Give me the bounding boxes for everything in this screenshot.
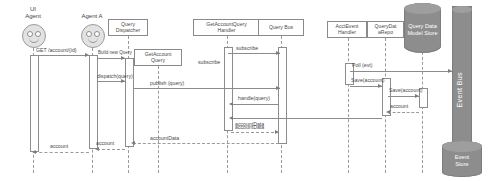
- participant-query-repo-line2: aRepo: [378, 30, 393, 36]
- activation-query-dispatcher: [125, 58, 134, 147]
- database-event-store-line2: Store: [455, 161, 468, 168]
- participant-handler-line2: Handler: [218, 28, 236, 34]
- message-label-publish-query: publish (query): [150, 80, 184, 86]
- message-label-account-data-2: accountData: [235, 124, 264, 130]
- message-label-account-1: account: [96, 140, 114, 146]
- actor-eye-left-icon: [86, 31, 92, 37]
- arrow-head-right-icon: [415, 94, 419, 98]
- database-event-store[interactable]: Event Store: [442, 141, 482, 177]
- participant-acct-handler-line2: Handler: [338, 30, 356, 36]
- actor-eye-left-icon: [27, 31, 33, 37]
- lifeline-acct-handler: [348, 38, 349, 173]
- event-bus-label: Event Bus: [456, 72, 463, 108]
- arrow-head-right-icon: [378, 84, 382, 88]
- actor-icon-agent-a: [81, 24, 105, 48]
- activation-agent-a: [89, 55, 98, 149]
- arrow-head-left-icon: [229, 102, 233, 106]
- arrow-head-left-icon: [229, 116, 233, 120]
- message-line-account-store: [388, 112, 419, 113]
- message-line-account-data-2: [231, 132, 279, 133]
- message-label-account-data-3: accountData: [150, 135, 179, 141]
- arrow-head-right-icon: [121, 56, 125, 60]
- message-label-subscribe-left: subscribe: [198, 59, 220, 65]
- message-label-account-store: account: [390, 103, 408, 109]
- bus-cap-icon: [452, 6, 472, 13]
- message-label-poll-evt: Poll (evt): [352, 62, 372, 68]
- arrow-head-left-icon: [386, 110, 390, 114]
- message-label-dispatch-query: dispatch(query): [97, 73, 133, 79]
- database-query-data-model-store[interactable]: Query Data Model Store: [404, 3, 441, 53]
- message-label-account-2: account: [50, 143, 68, 149]
- actor-eye-right-icon: [35, 31, 41, 37]
- actor-eye-right-icon: [94, 31, 100, 37]
- actor-label-agent-a: Agent A: [72, 13, 112, 20]
- participant-getaccountquery-handler[interactable]: GetAccountQuery Handler: [193, 19, 260, 36]
- database-event-store-line1: Event: [455, 150, 469, 161]
- activation-ui-agent: [30, 55, 39, 152]
- message-line-handle-query: [231, 104, 279, 105]
- arrow-head-right-icon: [85, 53, 89, 57]
- participant-query-bus[interactable]: Query Bus: [258, 19, 304, 36]
- message-line-account-2: [34, 152, 89, 153]
- arrow-head-right-icon: [121, 79, 125, 83]
- actor-label-ui-agent-line2: Agent: [13, 13, 53, 20]
- participant-query-data-repo[interactable]: QueryDat aRepo: [367, 21, 404, 38]
- participant-query-bus-label: Query Bus: [269, 25, 293, 31]
- database-query-store-label: Query Data Model Store: [404, 19, 441, 37]
- participant-query-dispatcher[interactable]: Query Dispatcher: [108, 19, 148, 36]
- arrow-head-left-icon: [131, 141, 135, 145]
- actor-mouth-icon: [29, 38, 39, 43]
- actor-label-ui-agent-line1: UI: [13, 6, 53, 13]
- message-label-save-account-1: Save(account): [351, 77, 384, 83]
- arrow-head-left-icon: [32, 150, 36, 154]
- message-line-get-account: [34, 55, 89, 56]
- participant-getaccount-query[interactable]: GetAccount Query: [134, 49, 182, 66]
- arrow-head-left-icon: [95, 147, 99, 151]
- message-label-handle-query: handle(query): [238, 95, 270, 101]
- message-label-subscribe-top: subscribe: [236, 45, 258, 51]
- participant-getaccount-query-line2: Query: [151, 58, 165, 64]
- arrow-head-right-icon: [276, 86, 280, 90]
- actor-mouth-icon: [88, 38, 98, 43]
- message-line-account-data-3: [133, 143, 279, 144]
- cylinder-cap-icon: [404, 3, 441, 14]
- participant-query-dispatcher-line2: Dispatcher: [116, 28, 140, 34]
- activation-query-bus: [278, 47, 287, 144]
- actor-label-ui-agent: UI Agent: [13, 6, 53, 20]
- arrow-head-right-icon: [275, 130, 279, 134]
- arrow-head-right-icon: [448, 69, 452, 73]
- message-line-subscribe-top: [228, 53, 280, 54]
- actor-icon-ui-agent: [22, 24, 46, 48]
- message-label-get-account: GET /account/{id}: [36, 47, 77, 53]
- message-line-publish-query: [133, 88, 280, 89]
- arrow-head-right-icon: [276, 51, 280, 55]
- sequence-diagram-canvas: UI Agent Agent A Query Dispatcher GetAcc…: [0, 0, 489, 181]
- message-line-poll-evt: [350, 71, 452, 72]
- message-line-account-data-1: [231, 118, 382, 119]
- participant-acct-event-handler[interactable]: AcctEvent Handler: [327, 21, 367, 38]
- message-line-account-1: [97, 149, 125, 150]
- message-label-build-new-query: Build new Query: [98, 50, 132, 55]
- message-label-save-account-2: Save(account): [389, 87, 422, 93]
